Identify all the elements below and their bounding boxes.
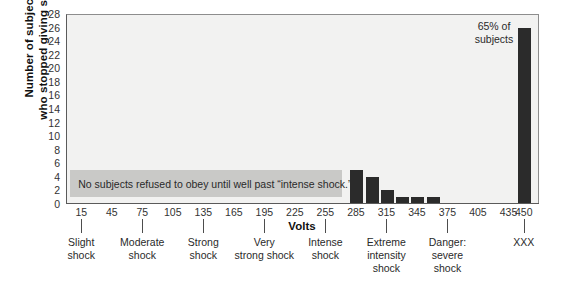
x-tick-label: 450: [515, 206, 533, 218]
bar: [350, 170, 363, 204]
bar: [366, 177, 379, 204]
callout-line-1: 65% of: [458, 20, 530, 33]
annotation-no-subjects-refused: No subjects refused to obey until well p…: [70, 170, 341, 197]
x-tick-label: 45: [106, 206, 118, 218]
y-tick-label: 8: [38, 144, 60, 156]
bar: [518, 28, 531, 204]
x-tick-label: 15: [75, 206, 87, 218]
annotation-no-subjects-refused-text: No subjects refused to obey until well p…: [78, 178, 351, 190]
y-tick-label: 22: [38, 49, 60, 61]
x-tick-label: 285: [347, 206, 365, 218]
category-label-line: severe: [404, 249, 490, 262]
category-leader-line: [325, 219, 326, 233]
x-tick-label: 315: [378, 206, 396, 218]
y-tick-label: 24: [38, 35, 60, 47]
category-leader-line: [203, 219, 204, 233]
category-label-line: shock: [404, 262, 490, 275]
y-tick-label: 2: [38, 184, 60, 196]
y-tick-label: 0: [38, 198, 60, 210]
y-tick-label: 20: [38, 62, 60, 74]
x-tick-label: 165: [225, 206, 243, 218]
x-tick-label: 255: [317, 206, 335, 218]
category-label-line: XXX: [481, 236, 566, 249]
x-tick-label: 405: [469, 206, 487, 218]
bar: [381, 190, 394, 204]
y-tick-label: 14: [38, 103, 60, 115]
y-tick-label: 6: [38, 157, 60, 169]
x-tick-label: 345: [408, 206, 426, 218]
x-tick-label: 375: [439, 206, 457, 218]
y-tick-label: 18: [38, 76, 60, 88]
x-tick-label: 75: [136, 206, 148, 218]
category-labels-layer: SlightshockModerateshockStrongshockVerys…: [66, 219, 539, 287]
y-axis-title-line-1: Number of subjects: [23, 0, 37, 98]
milgram-shock-bar-chart: Number of subjects who stopped giving sh…: [0, 0, 566, 288]
y-tick-label: 10: [38, 130, 60, 142]
x-tick-label: 225: [286, 206, 304, 218]
y-tick-label: 28: [38, 8, 60, 20]
annotation-sixty-five-percent: 65% of subjects: [458, 20, 530, 46]
y-axis-tick-labels: 0246810121416182022242628: [38, 14, 60, 204]
y-tick-label: 12: [38, 117, 60, 129]
category-leader-line: [447, 219, 448, 233]
x-tick-label: 105: [164, 206, 182, 218]
callout-line-2: subjects: [458, 33, 530, 46]
x-tick-label: 195: [256, 206, 274, 218]
y-tick-label: 26: [38, 22, 60, 34]
y-tick-label: 16: [38, 89, 60, 101]
x-axis-line: [66, 203, 539, 204]
category-leader-line: [81, 219, 82, 233]
category-leader-line: [264, 219, 265, 233]
category-label: XXX: [481, 236, 566, 249]
category-leader-line: [142, 219, 143, 233]
x-tick-label: 135: [195, 206, 213, 218]
category-leader-line: [386, 219, 387, 233]
category-label-line: Danger:: [404, 236, 490, 249]
category-label: Danger:severeshock: [404, 236, 490, 274]
y-tick-label: 4: [38, 171, 60, 183]
category-leader-line: [524, 219, 525, 233]
